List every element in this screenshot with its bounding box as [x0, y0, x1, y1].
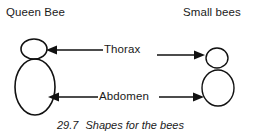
abdomen-right-arrow	[159, 93, 204, 102]
bee-diagram	[0, 0, 257, 136]
thorax-left-arrow	[46, 46, 103, 55]
callout-label-abdomen: Abdomen	[99, 90, 149, 103]
thorax-right-arrowhead	[194, 51, 205, 60]
thorax-right-arrow	[157, 51, 205, 60]
figure-caption-number: 29.7	[57, 119, 78, 131]
queen-thorax-ellipse	[21, 39, 47, 59]
abdomen-left-arrow	[48, 93, 98, 102]
callout-label-thorax: Thorax	[104, 43, 140, 56]
figure-container: Queen Bee Small bees Thorax Abdome	[0, 0, 257, 136]
figure-caption-text: Shapes for the bees	[85, 119, 183, 131]
figure-caption: 29.7Shapes for the bees	[57, 119, 184, 131]
small-bee-shape	[202, 48, 234, 106]
small-thorax-ellipse	[206, 48, 228, 68]
thorax-left-arrowhead	[46, 46, 57, 55]
queen-abdomen-ellipse	[15, 59, 55, 115]
small-abdomen-ellipse	[202, 70, 234, 106]
